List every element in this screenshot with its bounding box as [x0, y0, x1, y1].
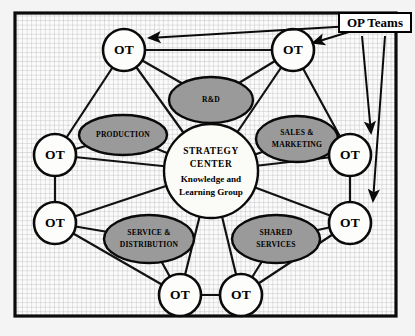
rd-label: R&D: [202, 95, 220, 104]
function-node-shared-services[interactable]: SHARED SERVICES: [232, 215, 320, 263]
network-diagram: R&D PRODUCTION SALES & MARKETING SERVICE…: [13, 11, 398, 318]
function-node-sales-marketing[interactable]: SALES & MARKETING: [256, 116, 338, 162]
strategy-center-node[interactable]: STRATEGY CENTER Knowledge and Learning G…: [164, 124, 258, 218]
ot-label: OT: [231, 287, 251, 302]
center-label-line1: STRATEGY: [183, 146, 239, 156]
production-label: PRODUCTION: [96, 130, 150, 139]
shared-services-label-line2: SERVICES: [256, 240, 295, 249]
ot-node-right-lower[interactable]: OT: [329, 202, 371, 244]
ot-node-bottom-left[interactable]: OT: [159, 274, 201, 316]
diagram-canvas: R&D PRODUCTION SALES & MARKETING SERVICE…: [0, 0, 415, 336]
ot-label: OT: [340, 215, 360, 230]
strategy-center-circle[interactable]: [164, 124, 258, 218]
service-distribution-label-line2: DISTRIBUTION: [120, 240, 179, 249]
op-teams-label: OP Teams: [347, 15, 403, 31]
ot-label: OT: [340, 147, 360, 162]
service-distribution-label-line1: SERVICE &: [127, 228, 171, 237]
sales-marketing-label-line1: SALES &: [280, 128, 314, 137]
center-label-line2: CENTER: [190, 159, 233, 169]
ot-node-top-left[interactable]: OT: [103, 29, 145, 71]
sales-marketing-label-line2: MARKETING: [272, 140, 322, 149]
diagram-frame: R&D PRODUCTION SALES & MARKETING SERVICE…: [13, 11, 398, 318]
ot-label: OT: [45, 147, 65, 162]
ot-label: OT: [45, 215, 65, 230]
ot-label: OT: [114, 42, 134, 57]
ot-node-left-upper[interactable]: OT: [34, 134, 76, 176]
center-label-line3: Knowledge and: [181, 174, 241, 184]
shared-services-label-line1: SHARED: [260, 228, 293, 237]
op-teams-callout[interactable]: OP Teams: [338, 12, 412, 33]
ot-node-top-right[interactable]: OT: [272, 29, 314, 71]
ot-label: OT: [283, 42, 303, 57]
function-node-production[interactable]: PRODUCTION: [79, 115, 167, 155]
ot-node-bottom-right[interactable]: OT: [220, 274, 262, 316]
function-node-rd[interactable]: R&D: [169, 77, 253, 123]
center-label-line4: Learning Group: [179, 187, 243, 197]
ot-node-left-lower[interactable]: OT: [34, 202, 76, 244]
ot-label: OT: [170, 287, 190, 302]
function-node-service-distribution[interactable]: SERVICE & DISTRIBUTION: [104, 215, 194, 263]
ot-node-right-upper[interactable]: OT: [329, 134, 371, 176]
